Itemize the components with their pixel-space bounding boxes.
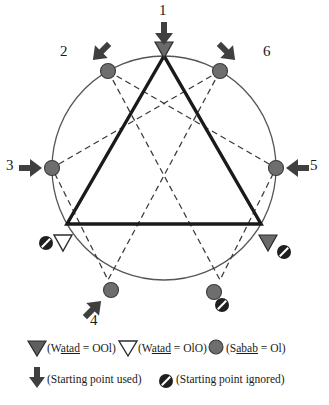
position-label-5: 5 — [310, 158, 318, 173]
arrow-into-2-icon — [87, 37, 116, 66]
legend-prefix: W — [142, 342, 152, 354]
position-label-6: 6 — [263, 44, 271, 59]
legend-watad-ool-text: (Watad = OOl) — [47, 343, 116, 355]
legend-underlined: abab — [236, 342, 258, 354]
legend-prohibition-icon — [159, 374, 173, 388]
legend-gray-circle-icon — [209, 340, 223, 354]
position-label-3: 3 — [6, 158, 14, 173]
bold-triangle — [67, 56, 261, 224]
legend-underlined: atad — [152, 342, 171, 354]
legend-down-arrow-icon — [29, 367, 45, 388]
legend-underlined: atad — [61, 342, 80, 354]
legend-filled-triangle-icon — [28, 341, 46, 356]
arrow-into-6-icon — [212, 37, 241, 66]
position-label-2: 2 — [60, 44, 68, 59]
legend-sabab-ol-text: (Sabab = Ol) — [226, 343, 286, 355]
marker-sabab-bottom-center — [207, 285, 222, 300]
marker-sabab-2 — [101, 64, 116, 79]
legend-suffix: = OlO) — [171, 342, 207, 354]
prohibition-bottom-center-icon — [215, 298, 229, 312]
arrow-into-5-icon — [286, 159, 309, 177]
arrow-into-3-icon — [19, 159, 42, 177]
legend-suffix: = Ol) — [258, 342, 286, 354]
position-label-1: 1 — [159, 3, 167, 18]
legend-hollow-triangle-icon — [119, 341, 137, 356]
marker-sabab-4 — [104, 283, 119, 298]
prohibition-bottom-left-icon — [39, 236, 53, 250]
marker-watad-filled-bottom-right — [259, 235, 277, 251]
marker-sabab-3 — [45, 161, 60, 176]
legend-starting-point-ignored-text: (Starting point ignored) — [176, 374, 285, 386]
legend-prefix: W — [51, 342, 61, 354]
legend-starting-point-used-text: (Starting point used) — [47, 374, 142, 386]
marker-sabab-6 — [213, 64, 228, 79]
marker-watad-hollow-bottom-left — [54, 235, 72, 251]
prohibition-bottom-right-icon — [277, 245, 291, 259]
marker-sabab-5 — [269, 161, 284, 176]
main-circle — [52, 56, 276, 280]
legend-watad-olo-text: (Watad = OlO) — [138, 343, 207, 355]
position-label-4: 4 — [90, 313, 98, 328]
legend-suffix: = OOl) — [80, 342, 116, 354]
